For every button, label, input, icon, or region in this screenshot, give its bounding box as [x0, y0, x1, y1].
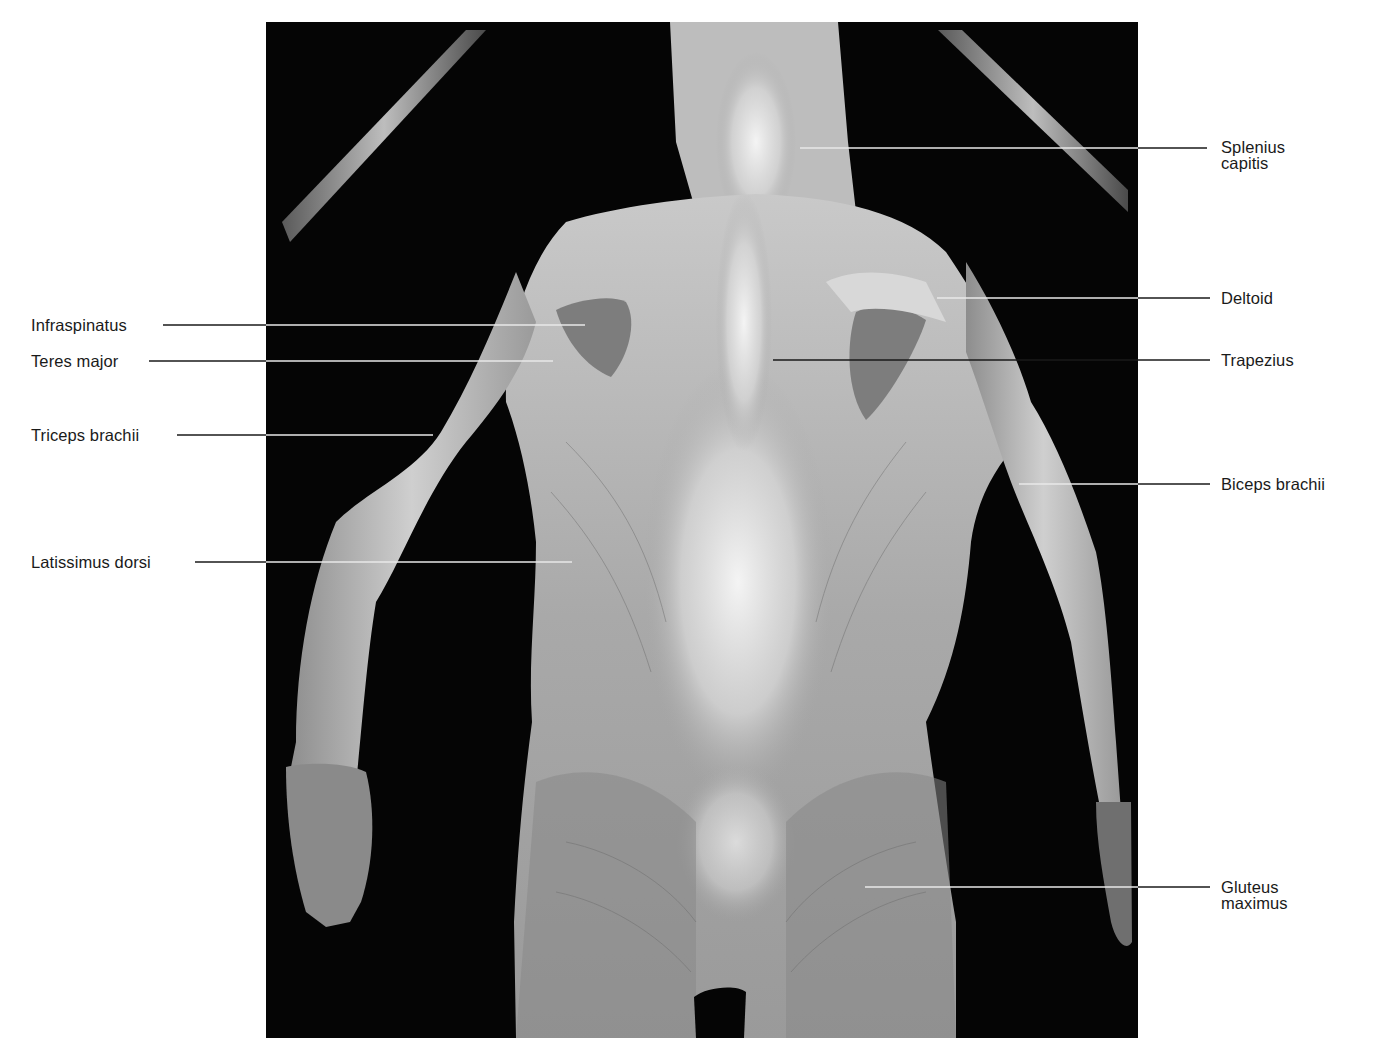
left-hand — [286, 764, 372, 927]
label-triceps-brachii: Triceps brachii — [31, 427, 139, 443]
label-splenius-capitis-line1: Splenius — [1221, 139, 1285, 155]
label-latissimus-dorsi: Latissimus dorsi — [31, 554, 151, 570]
label-gluteus-maximus-line1: Gluteus — [1221, 879, 1288, 895]
label-teres-major: Teres major — [31, 353, 118, 369]
right-support-rod — [938, 30, 1128, 212]
cadaver-back-photo — [266, 22, 1138, 1038]
label-splenius-capitis: Splenius capitis — [1221, 139, 1285, 171]
label-deltoid: Deltoid — [1221, 290, 1273, 306]
label-gluteus-maximus: Gluteus maximus — [1221, 879, 1288, 911]
label-gluteus-maximus-line2: maximus — [1221, 895, 1288, 911]
left-support-rod — [282, 30, 486, 242]
label-infraspinatus: Infraspinatus — [31, 317, 127, 333]
label-trapezius: Trapezius — [1221, 352, 1294, 368]
label-splenius-capitis-line2: capitis — [1221, 155, 1285, 171]
right-hand — [1096, 802, 1132, 946]
right-arm — [966, 262, 1121, 812]
left-arm — [288, 272, 536, 782]
anatomy-figure: Infraspinatus Teres major Triceps brachi… — [0, 0, 1383, 1062]
label-biceps-brachii: Biceps brachii — [1221, 476, 1325, 492]
photo-illustration — [266, 22, 1138, 1038]
